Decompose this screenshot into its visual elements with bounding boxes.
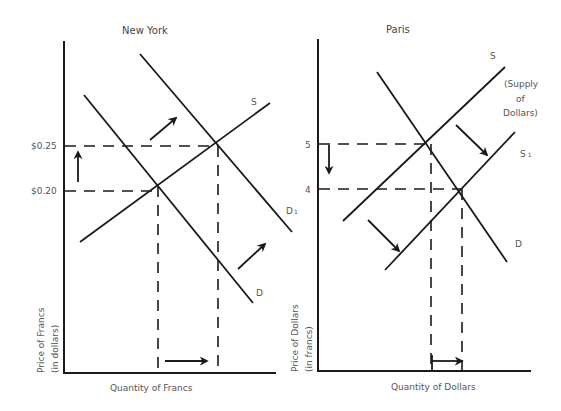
ny-demand-label: D — [256, 288, 263, 298]
paris-y-axis-label-line1: Price of Dollars — [290, 304, 300, 372]
paris-demand-curve — [377, 72, 507, 262]
ny-demand-shift-arrow-top-icon — [150, 118, 176, 140]
exchange-rate-diagram: New York $0.25 $0.20 S D D1 Price of Fra… — [0, 0, 561, 411]
new-york-title: New York — [122, 25, 168, 36]
ny-demand-shifted-label: D1 — [286, 206, 298, 216]
paris-supply-shift-arrow-bottom-icon — [368, 220, 399, 251]
ny-y-axis-label-line2: (in dollars) — [50, 325, 60, 373]
paris-y-axis-label-line2: (in francs) — [304, 326, 314, 372]
paris-supply-note-line1: (Supply — [504, 79, 539, 89]
paris-title: Paris — [386, 24, 410, 35]
ny-price-tick-low: $0.20 — [31, 186, 57, 196]
paris-supply-shifted-curve — [385, 132, 515, 270]
ny-x-axis-label: Quantity of Francs — [110, 383, 193, 393]
paris-supply-label: S — [490, 51, 496, 61]
ny-demand-curve — [84, 95, 253, 303]
paris-supply-shift-arrow-top-icon — [456, 125, 487, 155]
paris-supply-note-line3: Dollars) — [503, 108, 538, 118]
paris-supply-shifted-label: S1 — [520, 149, 532, 159]
paris-price-tick-high: 5 — [305, 140, 311, 150]
ny-demand-shift-arrow-bottom-icon — [238, 244, 265, 269]
paris-panel: Paris 5 4 S (Supply of Dollars) S1 D Pri… — [290, 24, 539, 392]
paris-price-tick-low: 4 — [305, 185, 311, 195]
ny-supply-label: S — [251, 97, 257, 107]
ny-y-axis-label-line1: Price of Francs — [36, 307, 46, 373]
new-york-panel: New York $0.25 $0.20 S D D1 Price of Fra… — [31, 25, 298, 393]
paris-supply-note-line2: of — [516, 94, 526, 104]
ny-price-tick-high: $0.25 — [31, 141, 57, 151]
paris-demand-label: D — [515, 239, 522, 249]
paris-x-axis-label: Quantity of Dollars — [391, 382, 476, 392]
